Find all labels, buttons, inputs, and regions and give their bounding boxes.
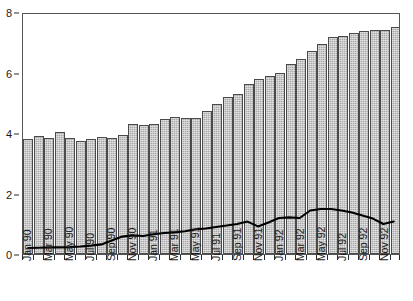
- x-tick-mark: [369, 255, 370, 260]
- bar-series: [23, 14, 399, 254]
- x-tick-label: Sep 92: [358, 228, 369, 261]
- x-tick-mark: [117, 255, 118, 260]
- x-tick-mark: [390, 255, 391, 260]
- x-tick-label: Mar 90: [43, 228, 54, 261]
- x-tick-mark: [54, 255, 55, 260]
- x-tick-mark: [306, 255, 307, 260]
- x-tick-mark: [399, 255, 400, 260]
- bar: [317, 44, 327, 254]
- x-tick-mark: [75, 255, 76, 260]
- y-tick-mark: [14, 255, 19, 256]
- y-tick-label: 8: [6, 8, 12, 19]
- x-tick-label: May 90: [64, 227, 75, 261]
- y-tick-mark: [14, 13, 19, 14]
- x-tick-mark: [264, 255, 265, 260]
- bar: [328, 37, 338, 254]
- x-tick-label: Jul 91: [211, 233, 222, 261]
- x-tick-label: Jan 91: [148, 229, 159, 261]
- x-tick-mark: [222, 255, 223, 260]
- y-tick-mark: [14, 134, 19, 135]
- x-tick-mark: [33, 255, 34, 260]
- y-tick-label: 2: [6, 189, 12, 200]
- x-tick-label: Jul 92: [337, 233, 348, 261]
- x-tick-label: Sep 90: [106, 228, 117, 261]
- x-tick-mark: [138, 255, 139, 260]
- x-tick-label: Nov 92: [379, 228, 390, 261]
- bar: [296, 59, 306, 254]
- x-tick-label: May 91: [190, 227, 201, 261]
- bar: [391, 27, 400, 254]
- x-tick-label: Mar 92: [295, 228, 306, 261]
- x-tick-mark: [243, 255, 244, 260]
- x-axis-labels: Jan 90Mar 90May 90Jul 90Sep 90Nov 90Jan …: [22, 261, 400, 301]
- x-tick-mark: [201, 255, 202, 260]
- bar: [265, 76, 275, 254]
- y-tick-label: 0: [6, 250, 12, 261]
- x-tick-mark: [327, 255, 328, 260]
- x-tick-mark: [285, 255, 286, 260]
- bar: [307, 51, 317, 254]
- x-tick-label: May 92: [316, 227, 327, 261]
- y-axis: 02468: [0, 0, 22, 301]
- bar: [212, 104, 222, 254]
- y-tick-label: 4: [6, 129, 12, 140]
- bar: [349, 33, 359, 254]
- x-tick-mark: [159, 255, 160, 260]
- y-tick-mark: [14, 73, 19, 74]
- combo-bar-line-chart: 02468 Jan 90Mar 90May 90Jul 90Sep 90Nov …: [0, 0, 413, 301]
- x-tick-label: Nov 91: [253, 228, 264, 261]
- bar: [380, 30, 390, 254]
- plot-area: [22, 13, 400, 255]
- x-tick-label: Jan 90: [22, 229, 33, 261]
- x-tick-mark: [348, 255, 349, 260]
- x-tick-mark: [96, 255, 97, 260]
- bar: [275, 73, 285, 255]
- x-tick-label: Jan 92: [274, 229, 285, 261]
- x-tick-mark: [180, 255, 181, 260]
- y-tick-mark: [14, 194, 19, 195]
- x-tick-label: Sep 91: [232, 228, 243, 261]
- y-tick-label: 6: [6, 68, 12, 79]
- x-tick-label: Nov 90: [127, 228, 138, 261]
- x-tick-label: Mar 91: [169, 228, 180, 261]
- bar: [286, 64, 296, 254]
- bar: [359, 31, 369, 254]
- x-tick-label: Jul 90: [85, 233, 96, 261]
- bar: [370, 30, 380, 254]
- bar: [338, 36, 348, 254]
